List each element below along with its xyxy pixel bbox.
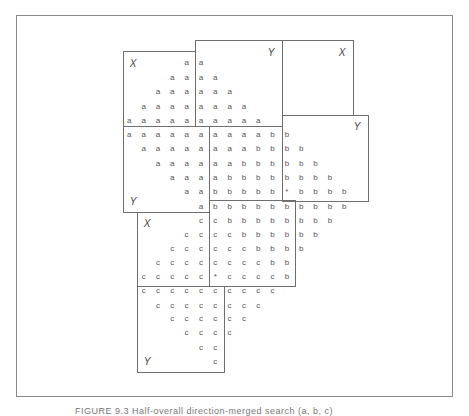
grid-cell-c: c [242,301,246,309]
grid-cell-a: a [213,102,217,110]
axis-label-x: X [130,58,137,69]
grid-cell-b: b [213,188,217,196]
grid-cell-c: c [170,301,174,309]
grid-cell-b: b [299,188,303,196]
grid-cell-b: b [270,202,274,210]
grid-cell-a: a [199,117,203,125]
grid-cell-c: c [242,244,246,252]
grid-cell-c: c [199,301,203,309]
grid-cell-a: a [156,159,160,167]
box-f [209,200,296,287]
grid-cell-c: c [213,258,217,266]
grid-cell-b: b [213,202,217,210]
grid-cell-b: b [342,188,346,196]
grid-cell-b: b [285,145,289,153]
grid-cell-a: a [227,88,231,96]
grid-cell-a: a [199,202,203,210]
grid-cell-c: c [156,258,160,266]
grid-cell-b: b [256,159,260,167]
grid-cell-c: c [228,315,232,323]
grid-cell-b: b [328,202,332,210]
grid-cell-c: c [199,258,203,266]
grid-cell-b: b [242,174,246,182]
grid-cell-a: a [199,59,203,67]
grid-cell-a: a [156,102,160,110]
grid-cell-b: b [242,230,246,238]
grid-cell-b: b [285,202,289,210]
grid-cell-c: c [213,329,217,337]
axis-label-y: Y [268,47,275,58]
grid-cell-c: c [185,244,189,252]
grid-cell-a: a [213,131,217,139]
grid-cell-b: b [299,145,303,153]
figure-caption: FIGURE 9.3 Half-overall direction-merged… [75,406,333,416]
grid-cell-b: b [227,188,231,196]
grid-cell-a: a [184,174,188,182]
grid-cell-c: c [213,287,217,295]
grid-cell-a: a [184,59,188,67]
grid-cell-c: c [256,287,260,295]
grid-cell-a: a [242,131,246,139]
grid-cell-a: a [199,174,203,182]
grid-cell-b: b [299,202,303,210]
grid-cell-a: a [170,131,174,139]
grid-cell-c: c [271,273,275,281]
grid-cell-c: c [242,315,246,323]
grid-cell-b: b [242,202,246,210]
grid-cell-c: c [199,216,203,224]
grid-cell-c: c [213,301,217,309]
center-marker: * [285,188,288,196]
grid-cell-a: a [170,102,174,110]
grid-cell-a: a [184,159,188,167]
grid-cell-c: c [185,230,189,238]
grid-cell-c: c [213,357,217,365]
grid-cell-c: c [170,273,174,281]
grid-cell-b: b [313,202,317,210]
grid-cell-a: a [256,117,260,125]
grid-cell-c: c [213,343,217,351]
grid-cell-b: b [285,230,289,238]
grid-cell-b: b [256,145,260,153]
grid-cell-a: a [184,102,188,110]
grid-cell-a: a [199,159,203,167]
grid-cell-c: c [228,244,232,252]
grid-cell-a: a [156,131,160,139]
grid-cell-b: b [313,174,317,182]
axis-label-x: X [339,47,346,58]
grid-cell-a: a [213,88,217,96]
grid-cell-c: c [256,301,260,309]
grid-cell-c: c [256,258,260,266]
grid-cell-c: c [256,273,260,281]
grid-cell-c: c [156,301,160,309]
grid-cell-a: a [156,145,160,153]
grid-cell-a: a [170,88,174,96]
grid-cell-b: b [227,202,231,210]
grid-cell-b: b [299,159,303,167]
grid-cell-b: b [313,188,317,196]
grid-cell-b: b [256,202,260,210]
grid-cell-a: a [170,74,174,82]
grid-cell-b: b [285,131,289,139]
grid-cell-b: b [313,230,317,238]
grid-cell-a: a [227,117,231,125]
grid-cell-c: c [242,287,246,295]
grid-cell-c: c [213,244,217,252]
grid-cell-b: b [313,159,317,167]
grid-cell-b: b [242,216,246,224]
grid-cell-c: c [228,258,232,266]
grid-cell-b: b [299,174,303,182]
grid-cell-c: c [199,315,203,323]
grid-cell-c: c [228,273,232,281]
grid-cell-c: c [199,230,203,238]
grid-cell-b: b [299,230,303,238]
grid-cell-c: c [242,258,246,266]
grid-cell-a: a [141,145,145,153]
axis-label-y: Y [130,196,137,207]
grid-cell-b: b [227,216,231,224]
grid-cell-b: b [242,188,246,196]
grid-cell-b: b [285,244,289,252]
grid-cell-b: b [285,159,289,167]
grid-cell-a: a [170,117,174,125]
grid-cell-a: a [184,131,188,139]
grid-cell-c: c [170,315,174,323]
